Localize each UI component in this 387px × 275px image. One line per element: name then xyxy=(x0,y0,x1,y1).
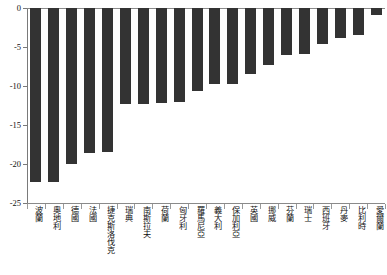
bar[interactable] xyxy=(317,8,328,44)
y-tick-label: -10 xyxy=(0,82,21,91)
x-tick-separator xyxy=(242,204,243,209)
bar[interactable] xyxy=(227,8,238,84)
x-category-label: 義大利 xyxy=(208,206,221,230)
bar[interactable] xyxy=(48,8,59,182)
x-tick-separator xyxy=(170,204,171,209)
bar[interactable] xyxy=(120,8,131,104)
x-tick-separator xyxy=(45,204,46,209)
bar[interactable] xyxy=(263,8,274,65)
x-category-label: 法國 xyxy=(83,206,96,222)
x-category-label: 挪威 xyxy=(262,206,275,222)
x-category-label: 德國 xyxy=(65,206,78,222)
x-axis-category-labels: 波蘭奧地利德國法國捷克斯洛伐克瑞典南斯拉夫荷蘭匈牙利羅馬尼亞義大利保加利亞英國挪… xyxy=(27,204,385,275)
bar[interactable] xyxy=(281,8,292,55)
x-category-label: 西班牙 xyxy=(316,206,329,230)
x-tick-separator xyxy=(81,204,82,209)
x-category-label: 羅馬尼亞 xyxy=(191,206,204,238)
bars-layer xyxy=(27,8,385,203)
x-category-label: 波蘭 xyxy=(29,206,42,222)
x-tick-separator xyxy=(99,204,100,209)
x-category-label: 愛爾蘭 xyxy=(370,206,383,230)
x-category-label: 南斯拉夫 xyxy=(137,206,150,238)
x-tick-separator xyxy=(206,204,207,209)
x-tick-separator xyxy=(331,204,332,209)
y-tick-label: -20 xyxy=(0,160,21,169)
x-tick-separator xyxy=(349,204,350,209)
bar[interactable] xyxy=(30,8,41,182)
x-tick-separator xyxy=(27,204,28,209)
bar[interactable] xyxy=(335,8,346,38)
bar[interactable] xyxy=(84,8,95,153)
x-category-label: 匈牙利 xyxy=(173,206,186,230)
bar[interactable] xyxy=(299,8,310,54)
x-category-label: 捷克斯洛伐克 xyxy=(101,206,114,254)
x-tick-separator xyxy=(134,204,135,209)
x-tick-separator xyxy=(117,204,118,209)
x-category-label: 荷蘭 xyxy=(155,206,168,222)
x-category-label: 瑞典 xyxy=(119,206,132,222)
bar[interactable] xyxy=(102,8,113,152)
x-tick-separator xyxy=(313,204,314,209)
x-category-label: 保加利亞 xyxy=(226,206,239,238)
y-tick-label: -15 xyxy=(0,121,21,130)
x-tick-separator xyxy=(188,204,189,209)
x-category-label: 比利時 xyxy=(352,206,365,230)
x-tick-separator xyxy=(278,204,279,209)
x-tick-separator xyxy=(63,204,64,209)
y-tick-label: -25 xyxy=(0,199,21,208)
x-category-label: 瑞士 xyxy=(298,206,311,222)
bar[interactable] xyxy=(138,8,149,104)
bar[interactable] xyxy=(174,8,185,102)
y-tick-label: -5 xyxy=(0,43,21,52)
x-tick-separator xyxy=(367,204,368,209)
bar[interactable] xyxy=(209,8,220,84)
x-tick-separator xyxy=(296,204,297,209)
bar[interactable] xyxy=(245,8,256,74)
bar[interactable] xyxy=(192,8,203,91)
x-category-label: 英國 xyxy=(244,206,257,222)
x-tick-separator xyxy=(152,204,153,209)
x-category-label: 芬蘭 xyxy=(280,206,293,222)
x-tick-separator xyxy=(224,204,225,209)
bar[interactable] xyxy=(371,8,382,15)
y-tick-label: 0 xyxy=(0,4,21,13)
x-category-label: 奧地利 xyxy=(47,206,60,230)
x-tick-separator xyxy=(385,204,386,209)
bar[interactable] xyxy=(353,8,364,35)
bar-chart: 0-5-10-15-20-25 波蘭奧地利德國法國捷克斯洛伐克瑞典南斯拉夫荷蘭匈… xyxy=(0,0,387,275)
x-category-label: 丹麥 xyxy=(334,206,347,222)
bar[interactable] xyxy=(66,8,77,164)
bar[interactable] xyxy=(156,8,167,103)
x-tick-separator xyxy=(260,204,261,209)
